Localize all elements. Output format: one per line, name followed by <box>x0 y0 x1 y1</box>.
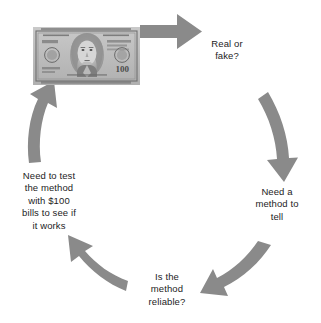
arrow-bill-to-real-fake <box>140 14 202 49</box>
node-label-need-to-test: Need to test the method with $100 bills … <box>8 170 90 232</box>
hundred-dollar-bill-image: 100 <box>33 27 140 85</box>
arrow-need-test-to-bill <box>28 81 57 163</box>
node-label-method-reliable: Is the method reliable? <box>134 271 200 308</box>
node-label-real-fake: Real or fake? <box>196 38 258 63</box>
arrow-need-method-to-reliable <box>200 241 271 296</box>
arrow-reliable-to-need-test <box>68 235 128 291</box>
arrow-real-fake-to-need-method <box>258 92 298 182</box>
bill-artwork: 100 <box>33 27 140 85</box>
node-label-need-method: Need a method to tell <box>242 186 312 223</box>
cycle-diagram: 100 Real or fake? Need a method to tell … <box>0 0 321 323</box>
svg-text:100: 100 <box>116 64 130 74</box>
